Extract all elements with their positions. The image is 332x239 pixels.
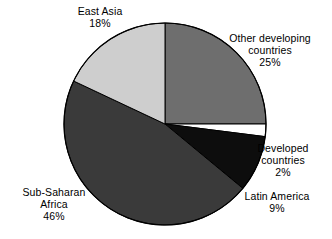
slice-label-developed-countries-value: 2% [240,166,326,178]
slice-label-east-asia-value: 18% [63,17,137,29]
slice-label-sub-saharan-africa: Sub-Saharan Africa 46% [2,186,106,223]
slice-label-developed-countries-line2: countries [240,154,326,166]
slice-label-developed-countries-line1: Developed [240,142,326,154]
slice-label-latin-america-name: Latin America [227,190,327,202]
slice-label-developed-countries: Developed countries 2% [240,142,326,179]
slice-label-sub-saharan-africa-value: 46% [2,210,106,222]
slice-label-latin-america: Latin America 9% [227,190,327,214]
slice-label-other-developing-countries-value: 25% [214,56,326,68]
slice-label-sub-saharan-africa-line1: Sub-Saharan [2,186,106,198]
slice-label-other-developing-countries-line1: Other developing [214,32,326,44]
slice-label-other-developing-countries-line2: countries [214,44,326,56]
slice-label-east-asia-name: East Asia [63,5,137,17]
pie-chart-figure: East Asia 18% Other developing countries… [0,0,332,239]
slice-label-east-asia: East Asia 18% [63,5,137,29]
slice-label-sub-saharan-africa-line2: Africa [2,198,106,210]
slice-label-other-developing-countries: Other developing countries 25% [214,32,326,69]
slice-label-latin-america-value: 9% [227,202,327,214]
